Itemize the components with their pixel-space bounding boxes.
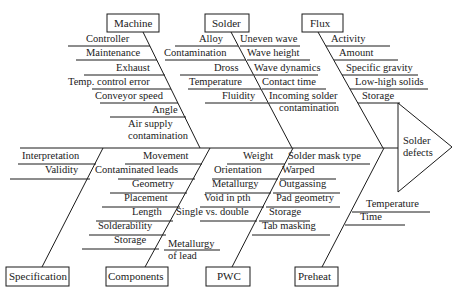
cause-air-supply-2: contamination bbox=[128, 130, 189, 141]
cause-activity: Activity bbox=[331, 33, 366, 44]
cause-tab-masking: Tab masking bbox=[262, 220, 317, 231]
category-label-preheat: Preheat bbox=[298, 270, 331, 282]
cause-temp-control-error: Temp. control error bbox=[68, 76, 150, 87]
cause-flux-storage: Storage bbox=[362, 90, 394, 101]
cause-wave-dynamics: Wave dynamics bbox=[254, 62, 321, 73]
cause-dross: Dross bbox=[214, 62, 239, 73]
cause-incoming-solder-2: contamination bbox=[279, 102, 340, 113]
cause-single-vs-double: Single vs. double bbox=[176, 206, 249, 217]
category-label-specification: Specification bbox=[9, 270, 68, 282]
cause-contaminated-leads: Contaminated leads bbox=[95, 164, 178, 175]
cause-weight: Weight bbox=[243, 150, 273, 161]
cause-orientation: Orientation bbox=[214, 164, 263, 175]
category-label-components: Components bbox=[108, 270, 164, 282]
cause-angle: Angle bbox=[152, 104, 178, 115]
cause-preheat-time: Time bbox=[360, 211, 382, 222]
cause-low-high-solids: Low-high solids bbox=[355, 76, 424, 87]
fishbone-svg: Machine Controller Maintenance Exhaust T… bbox=[0, 0, 462, 297]
cause-interpretation: Interpretation bbox=[22, 150, 80, 161]
fishbone-diagram: Machine Controller Maintenance Exhaust T… bbox=[0, 0, 462, 297]
cause-placement: Placement bbox=[124, 192, 168, 203]
cause-movement: Movement bbox=[143, 150, 189, 161]
cause-length: Length bbox=[132, 206, 162, 217]
cause-alloy: Alloy bbox=[199, 33, 224, 44]
cause-uneven-wave: Uneven wave bbox=[240, 33, 298, 44]
cause-warped: Warped bbox=[282, 164, 315, 175]
cause-geometry: Geometry bbox=[132, 178, 175, 189]
cause-pwc-storage: Storage bbox=[269, 206, 301, 217]
cause-solderability: Solderability bbox=[98, 220, 153, 231]
cause-maintenance: Maintenance bbox=[86, 47, 141, 58]
cause-amount: Amount bbox=[339, 47, 374, 58]
cause-exhaust: Exhaust bbox=[116, 62, 150, 73]
effect-text-2: defects bbox=[403, 147, 433, 158]
cause-preheat-temperature: Temperature bbox=[366, 198, 419, 209]
cause-fluidity: Fluidity bbox=[222, 90, 256, 101]
cause-validity: Validity bbox=[45, 164, 79, 175]
category-label-solder: Solder bbox=[212, 17, 241, 29]
cause-contamination: Contamination bbox=[164, 47, 227, 58]
cause-incoming-solder: Incoming solder bbox=[269, 90, 338, 101]
cause-solder-mask-type: Solder mask type bbox=[288, 150, 361, 161]
category-label-flux: Flux bbox=[310, 17, 331, 29]
cause-void-in-pth: Void in pth bbox=[204, 192, 251, 203]
cause-specific-gravity: Specific gravity bbox=[346, 62, 414, 73]
cause-conveyor-speed: Conveyor speed bbox=[95, 90, 164, 101]
cause-pad-geometry: Pad geometry bbox=[276, 192, 335, 203]
cause-outgassing: Outgassing bbox=[279, 178, 327, 189]
cause-controller: Controller bbox=[86, 33, 130, 44]
cause-metallurgy: Metallurgy bbox=[212, 178, 259, 189]
cause-contact-time: Contact time bbox=[262, 76, 316, 87]
cause-temperature: Temperature bbox=[189, 76, 242, 87]
cause-metallurgy-of-lead: Metallurgy bbox=[168, 238, 215, 249]
cause-metallurgy-of-lead-2: of lead bbox=[168, 250, 198, 261]
cause-components-storage: Storage bbox=[114, 234, 146, 245]
cause-wave-height: Wave height bbox=[247, 47, 300, 58]
effect-text-1: Solder bbox=[403, 135, 431, 146]
category-label-pwc: PWC bbox=[217, 270, 241, 282]
cause-air-supply: Air supply bbox=[128, 118, 173, 129]
category-label-machine: Machine bbox=[114, 17, 153, 29]
